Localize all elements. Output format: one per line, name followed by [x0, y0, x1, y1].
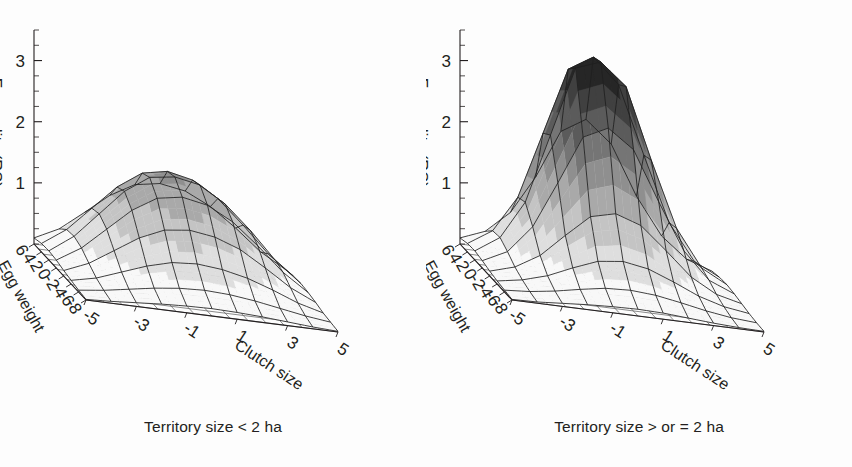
x-axis-tick-label: 3: [709, 332, 727, 353]
x-axis-tick: [661, 319, 663, 324]
x-axis-tick-label: 5: [760, 339, 778, 360]
x-axis-tick-label: -3: [130, 312, 153, 336]
z-axis-title: Fecundity (RS): [0, 78, 5, 188]
x-axis-tick: [235, 319, 237, 324]
panel-right-caption: Territory size > or = 2 ha: [426, 418, 852, 436]
z-axis-tick-label: 2: [442, 113, 451, 132]
surface-plot-left: 321Fecundity (RS)-5-3-1135Clutch size642…: [0, 0, 426, 420]
x-axis-tick: [134, 306, 136, 311]
x-axis-tick: [286, 326, 288, 331]
x-axis-tick: [611, 313, 613, 318]
x-axis-tick: [712, 326, 714, 331]
x-axis-tick-label: -3: [556, 312, 579, 336]
panel-left-caption: Territory size < 2 ha: [0, 418, 426, 436]
x-axis-tick: [762, 332, 764, 337]
z-axis-title: Fecundity (RS): [426, 78, 431, 188]
z-axis-tick-label: 2: [16, 113, 25, 132]
z-axis-tick-label: 1: [442, 174, 451, 193]
surface-mesh: [460, 57, 764, 331]
surface-plot-right: 321Fecundity (RS)-5-3-1135Clutch size642…: [426, 0, 852, 420]
z-axis-tick-label: 1: [16, 174, 25, 193]
z-axis-tick-label: 3: [442, 52, 451, 71]
figure-two-surface-plots: 321Fecundity (RS)-5-3-1135Clutch size642…: [0, 0, 852, 467]
x-axis-tick-label: 5: [334, 339, 352, 360]
x-axis-tick-label: -1: [180, 318, 203, 342]
x-axis-tick: [560, 306, 562, 311]
panel-right: 321Fecundity (RS)-5-3-1135Clutch size642…: [426, 0, 852, 467]
x-axis-tick-label: 3: [283, 332, 301, 353]
x-axis-tick: [185, 313, 187, 318]
x-axis-tick: [336, 332, 338, 337]
z-axis-tick-label: 3: [16, 52, 25, 71]
panel-left: 321Fecundity (RS)-5-3-1135Clutch size642…: [0, 0, 426, 467]
x-axis-tick-label: -1: [606, 318, 629, 342]
